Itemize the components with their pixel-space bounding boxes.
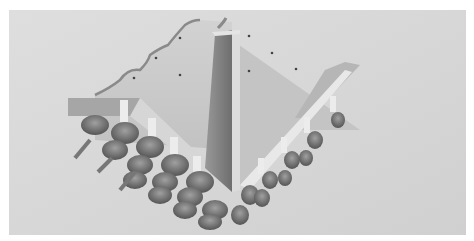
left-roof-slab — [68, 98, 140, 116]
render-frame — [9, 10, 466, 235]
tower-face-light — [232, 30, 240, 192]
architectural-render — [9, 10, 466, 235]
